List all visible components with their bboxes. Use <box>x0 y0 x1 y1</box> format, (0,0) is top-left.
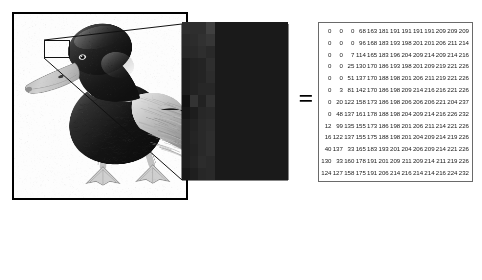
matrix-cell: 178 <box>367 108 378 120</box>
matrix-cell: 0 <box>332 49 343 61</box>
pixel-cell <box>190 22 198 34</box>
pixel-cell <box>182 95 190 107</box>
matrix-cell: 186 <box>378 120 389 132</box>
pixel-cell <box>215 58 223 70</box>
pixel-cell <box>264 71 272 83</box>
matrix-cell: 221 <box>436 96 447 108</box>
matrix-cell: 206 <box>378 167 389 179</box>
matrix-cell: 226 <box>458 72 470 84</box>
matrix-cell: 214 <box>458 37 470 49</box>
pixel-cell <box>239 83 247 95</box>
pixel-cell <box>239 131 247 143</box>
matrix-cell: 198 <box>401 37 412 49</box>
matrix-cell: 186 <box>378 96 389 108</box>
matrix-cell: 158 <box>355 96 366 108</box>
pixel-cell <box>198 131 206 143</box>
pixel-cell <box>255 46 263 58</box>
matrix-cell: 204 <box>447 96 458 108</box>
matrix-cell: 173 <box>367 96 378 108</box>
pixel-cell <box>247 34 255 46</box>
matrix-cell: 219 <box>436 72 447 84</box>
matrix-cell: 198 <box>390 108 401 120</box>
figure-root: = 00068163181191191191191209209209000961… <box>0 0 482 280</box>
pixel-cell <box>190 58 198 70</box>
matrix-cell: 96 <box>355 37 366 49</box>
matrix-cell: 51 <box>344 72 355 84</box>
pixel-cell <box>264 156 272 168</box>
pixel-cell <box>223 22 231 34</box>
pixel-cell <box>247 83 255 95</box>
pixel-cell <box>206 34 214 46</box>
matrix-cell: 219 <box>447 132 458 144</box>
matrix-cell: 211 <box>447 37 458 49</box>
pixel-cell <box>239 168 247 180</box>
duck-photograph <box>14 14 186 198</box>
matrix-cell: 48 <box>332 108 343 120</box>
pixel-cell <box>198 58 206 70</box>
pixel-cell <box>198 71 206 83</box>
pixel-cell <box>223 34 231 46</box>
pixel-cell <box>190 131 198 143</box>
matrix-cell: 216 <box>458 49 470 61</box>
matrix-row: 16122137155175188198201204209214219226 <box>321 132 470 144</box>
matrix-cell: 209 <box>458 25 470 37</box>
matrix-cell: 206 <box>413 143 424 155</box>
pixel-cell <box>255 168 263 180</box>
matrix-cell: 209 <box>424 132 435 144</box>
matrix-cell: 216 <box>436 108 447 120</box>
matrix-cell: 186 <box>378 84 389 96</box>
matrix-row: 124127158175191206214216214214216224232 <box>321 167 470 179</box>
matrix-cell: 201 <box>413 61 424 73</box>
matrix-cell: 183 <box>367 143 378 155</box>
matrix-cell: 124 <box>321 167 332 179</box>
matrix-row: 007114165183196204209214209214216 <box>321 49 470 61</box>
matrix-cell: 155 <box>355 132 366 144</box>
matrix-cell: 221 <box>447 143 458 155</box>
matrix-cell: 204 <box>401 49 412 61</box>
pixel-cell <box>206 83 214 95</box>
matrix-cell: 221 <box>447 61 458 73</box>
pixel-cell <box>198 22 206 34</box>
matrix-cell: 168 <box>367 37 378 49</box>
pixel-cell <box>280 71 288 83</box>
pixel-cell <box>231 107 239 119</box>
pixel-cell <box>231 22 239 34</box>
pixel-cell <box>280 144 288 156</box>
pixel-cell <box>182 71 190 83</box>
matrix-cell: 183 <box>378 49 389 61</box>
pixel-cell <box>198 156 206 168</box>
matrix-cell: 127 <box>332 167 343 179</box>
matrix-cell: 0 <box>321 61 332 73</box>
pixel-cell <box>182 119 190 131</box>
matrix-cell: 224 <box>447 167 458 179</box>
pixel-cell <box>272 119 280 131</box>
matrix-cell: 198 <box>390 84 401 96</box>
matrix-cell: 232 <box>458 108 470 120</box>
pixel-cell <box>264 131 272 143</box>
pixel-cell <box>280 156 288 168</box>
pixel-cell <box>255 156 263 168</box>
pixel-cell <box>182 107 190 119</box>
matrix-cell: 216 <box>436 84 447 96</box>
matrix-cell: 206 <box>401 96 412 108</box>
pixel-cell <box>190 107 198 119</box>
matrix-row: 4013733165183193201204206209214221226 <box>321 143 470 155</box>
matrix-cell: 81 <box>344 84 355 96</box>
pixel-cell <box>272 168 280 180</box>
pixel-cell <box>206 107 214 119</box>
pixel-cell <box>215 144 223 156</box>
pixel-cell <box>206 131 214 143</box>
pixel-cell <box>223 168 231 180</box>
matrix-cell: 216 <box>424 84 435 96</box>
pixel-cell <box>272 156 280 168</box>
pixel-cell <box>198 83 206 95</box>
matrix-cell: 198 <box>390 72 401 84</box>
matrix-cell: 209 <box>401 84 412 96</box>
matrix-cell: 211 <box>424 72 435 84</box>
matrix-cell: 191 <box>401 25 412 37</box>
matrix-cell: 191 <box>424 25 435 37</box>
matrix-cell: 219 <box>436 61 447 73</box>
matrix-cell: 137 <box>344 132 355 144</box>
pixel-cell <box>223 71 231 83</box>
matrix-cell: 160 <box>344 155 355 167</box>
